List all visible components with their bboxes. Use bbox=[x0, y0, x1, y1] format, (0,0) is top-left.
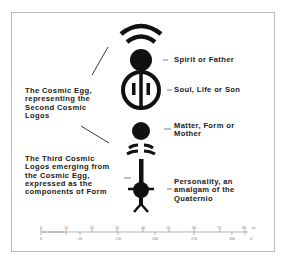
scale-bottom-unit: ft bbox=[250, 236, 252, 241]
scale-top-40: 40 bbox=[141, 225, 145, 230]
scale-bottom-0: 0 bbox=[40, 236, 42, 241]
scale-top-70: 70 bbox=[217, 225, 221, 230]
scale-top-30: 30 bbox=[115, 225, 119, 230]
spirit-circle-icon bbox=[130, 49, 152, 71]
scale-top-10: 10 bbox=[64, 225, 68, 230]
scale-bottom-300: 300 bbox=[229, 236, 235, 241]
matter-circle-icon bbox=[132, 122, 150, 140]
scale-top-60: 60 bbox=[192, 225, 196, 230]
egg-pointer-upper bbox=[92, 47, 108, 75]
scale-bottom-150: 150 bbox=[115, 236, 121, 241]
scale-bottom-50: 50 bbox=[78, 236, 82, 241]
scale-top-unit: m bbox=[252, 225, 255, 230]
radiating-arcs-icon bbox=[121, 26, 161, 42]
personality-figure-icon bbox=[128, 159, 154, 212]
scale-top-20: 20 bbox=[90, 225, 94, 230]
scale-top-50: 50 bbox=[166, 225, 170, 230]
label-matter: Matter, Form or Mother bbox=[174, 122, 235, 139]
label-soul: Soul, Life or Son bbox=[174, 86, 240, 94]
scale-bottom-100: 100 bbox=[152, 236, 158, 241]
egg-pointer-lower bbox=[81, 126, 109, 143]
scale-top-0: 0 bbox=[40, 225, 42, 230]
soul-circle-icon bbox=[123, 71, 159, 109]
scale-bottom-250: 250 bbox=[191, 236, 197, 241]
label-spirit: Spirit or Father bbox=[174, 56, 234, 64]
cosmic-figure bbox=[0, 0, 283, 259]
label-cosmic-egg: The Cosmic Egg, representing the Second … bbox=[25, 87, 92, 120]
label-third-logos: The Third Cosmic Logos emerging from the… bbox=[25, 155, 110, 196]
broken-arcs-icon bbox=[127, 145, 155, 154]
label-personality: Personality, an amalgam of the Quaternio bbox=[174, 178, 235, 203]
scale-top-80: 80 bbox=[242, 225, 246, 230]
